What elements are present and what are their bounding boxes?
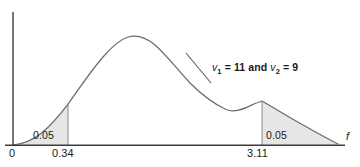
lower-tail-area-label: 0.05 [33,130,54,141]
v2-subscript: 2 [276,67,280,76]
x-axis-label: f [346,131,349,142]
v1-value: 11 [234,61,245,73]
x-tick-label-upper-critical: 3.11 [247,148,268,159]
v1-subscript: 1 [217,67,221,76]
equals-sign-1: = [225,61,231,73]
conjunction: and [248,61,267,73]
v2-value: 9 [292,61,298,73]
annotation-leader-line [186,53,211,83]
f-distribution-figure: 0 0.34 3.11 0.05 0.05 f v1 = 11 and v2 =… [0,0,360,167]
upper-tail-area-label: 0.05 [266,130,287,141]
equals-sign-2: = [283,61,289,73]
degrees-of-freedom-annotation: v1 = 11 and v2 = 9 [212,62,298,76]
x-tick-label-lower-critical: 0.34 [52,148,74,159]
distribution-plot [0,0,360,167]
x-tick-label-0: 0 [9,148,15,159]
